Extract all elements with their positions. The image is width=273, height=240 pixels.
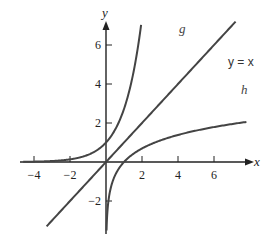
curve-y-equals-x xyxy=(47,22,236,227)
x-axis-arrow-icon xyxy=(245,159,254,166)
x-tick-label: 6 xyxy=(211,168,217,182)
x-tick-label: 4 xyxy=(175,168,181,182)
curve-g xyxy=(23,25,141,162)
curve-label-g: g xyxy=(179,21,186,36)
y-tick-label: 2 xyxy=(95,116,101,130)
curves xyxy=(23,22,246,231)
y-tick-label: −2 xyxy=(88,194,101,208)
curve-label-y-equals-x: y = x xyxy=(228,55,254,69)
y-tick-label: 4 xyxy=(95,77,101,91)
x-tick-label: −4 xyxy=(28,168,41,182)
x-tick-label: 2 xyxy=(139,168,145,182)
labels: x y g y = x h xyxy=(100,5,260,169)
x-tick-label: −2 xyxy=(64,168,77,182)
x-axis-label: x xyxy=(253,154,260,169)
curve-label-h: h xyxy=(241,82,248,97)
y-tick-label: 6 xyxy=(95,38,101,52)
y-axis-arrow-icon xyxy=(103,21,110,30)
chart: −4−2246−2246 x y g y = x h xyxy=(0,0,273,240)
y-axis-label: y xyxy=(100,5,108,20)
